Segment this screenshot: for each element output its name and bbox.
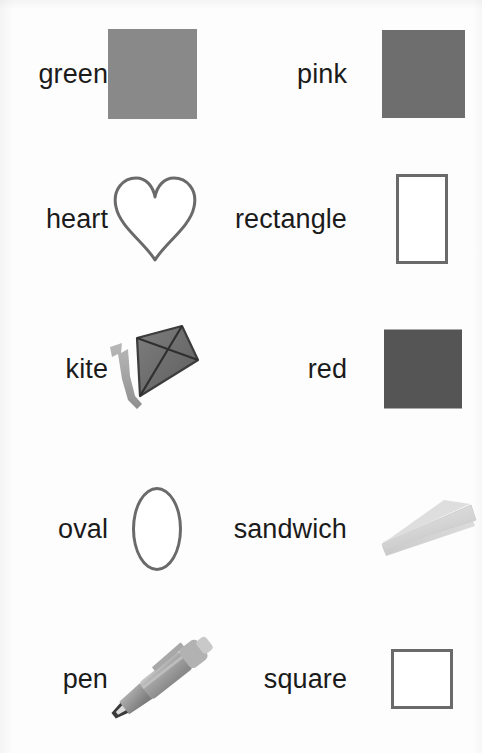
item-cell-pen[interactable]: pen [0, 605, 241, 753]
worksheet-row: oval sandwich [0, 455, 482, 603]
green-color-swatch-wrap[interactable] [108, 29, 197, 119]
pink-color-swatch [382, 30, 465, 118]
item-cell-kite[interactable]: kite [0, 295, 241, 443]
square-shape [391, 649, 453, 709]
item-cell-sandwich[interactable]: sandwich [241, 455, 482, 603]
rectangle-shape-wrap[interactable] [396, 174, 448, 264]
item-cell-green[interactable]: green [0, 0, 241, 148]
square-shape-wrap[interactable] [391, 649, 453, 709]
item-label-green: green [38, 61, 108, 88]
pen-picture-wrap[interactable] [95, 632, 230, 727]
worksheet-row: pen [0, 605, 482, 753]
item-label-red: red [308, 356, 347, 383]
red-color-swatch [384, 330, 462, 409]
item-label-kite: kite [66, 356, 108, 383]
sandwich-icon [376, 494, 481, 564]
item-cell-square[interactable]: square [241, 605, 482, 753]
item-cell-pink[interactable]: pink [241, 0, 482, 148]
item-label-sandwich: sandwich [234, 516, 347, 543]
item-label-heart: heart [46, 206, 108, 233]
item-cell-heart[interactable]: heart [0, 145, 241, 293]
worksheet-row: heart rectangle [0, 145, 482, 293]
heart-icon [112, 175, 198, 263]
item-label-pink: pink [297, 61, 347, 88]
sandwich-picture-wrap[interactable] [376, 494, 481, 564]
red-color-swatch-wrap[interactable] [384, 330, 462, 409]
oval-shape-wrap[interactable] [132, 487, 182, 571]
item-label-square: square [264, 666, 347, 693]
item-cell-rectangle[interactable]: rectangle [241, 145, 482, 293]
item-label-rectangle: rectangle [235, 206, 347, 233]
rectangle-shape [396, 174, 448, 264]
green-color-swatch [108, 29, 197, 119]
worksheet-row: green pink [0, 0, 482, 148]
worksheet-row: kite [0, 295, 482, 443]
item-label-oval: oval [58, 516, 108, 543]
item-cell-red[interactable]: red [241, 295, 482, 443]
heart-shape-wrap[interactable] [112, 175, 198, 263]
worksheet-page: green pink heart rectangle [0, 0, 482, 753]
pen-icon [95, 632, 230, 727]
oval-shape [132, 487, 182, 571]
item-cell-oval[interactable]: oval [0, 455, 241, 603]
kite-picture-wrap[interactable] [104, 316, 210, 422]
kite-icon [104, 316, 210, 422]
pink-color-swatch-wrap[interactable] [382, 30, 465, 118]
